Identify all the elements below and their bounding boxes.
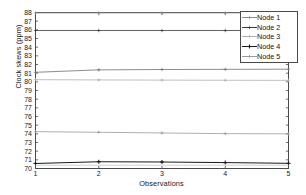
x-axis-tick-label: 5 bbox=[281, 170, 297, 177]
series-node-4 bbox=[34, 160, 291, 166]
series-node-3 bbox=[34, 78, 290, 82]
legend-swatch-icon bbox=[242, 23, 257, 32]
x-axis-tick-label: 3 bbox=[154, 170, 170, 177]
legend-item-node-4[interactable]: Node 4 bbox=[241, 42, 297, 52]
legend-swatch-icon bbox=[242, 42, 257, 51]
legend-swatch-icon bbox=[242, 13, 257, 22]
legend-marker-icon bbox=[242, 52, 257, 61]
legend-marker-icon bbox=[242, 42, 257, 51]
legend-label: Node 3 bbox=[257, 32, 280, 41]
legend-label: Node 4 bbox=[257, 42, 280, 51]
legend-item-node-1[interactable]: Node 1 bbox=[241, 13, 297, 23]
legend-label: Node 1 bbox=[257, 13, 280, 22]
legend-swatch-icon bbox=[242, 52, 257, 61]
legend-item-node-2[interactable]: Node 2 bbox=[241, 23, 297, 33]
chart-figure: Clock skews (ppm) 7071727374757677787980… bbox=[0, 0, 306, 195]
series-node-5 bbox=[34, 130, 290, 136]
series-node-6 bbox=[34, 67, 290, 74]
legend-label: Node 2 bbox=[257, 23, 280, 32]
legend-item-node-5[interactable]: Node 5 bbox=[241, 51, 297, 61]
x-axis-tick-label: 1 bbox=[28, 170, 44, 177]
legend-marker-icon bbox=[242, 23, 257, 32]
x-axis-tick-label: 4 bbox=[217, 170, 233, 177]
legend-marker-icon bbox=[242, 32, 257, 41]
legend-swatch-icon bbox=[242, 32, 257, 41]
chart-legend: Node 1Node 2Node 3Node 4Node 5 bbox=[240, 11, 298, 63]
legend-label: Node 5 bbox=[257, 52, 280, 61]
legend-item-node-3[interactable]: Node 3 bbox=[241, 32, 297, 42]
x-axis-tick-label: 2 bbox=[91, 170, 107, 177]
x-axis-label: Observations bbox=[35, 179, 288, 188]
legend-marker-icon bbox=[242, 13, 257, 22]
